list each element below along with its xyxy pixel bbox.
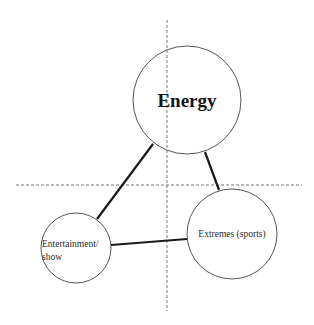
node-energy-label: Energy [157,90,217,111]
node-entertainment: Entertainment/ show [41,213,111,283]
edge-entertainment-extremes [111,239,187,245]
node-entertainment-label-line1: Entertainment/ [42,239,99,249]
diagram-canvas: Energy Entertainment/ show Extremes (spo… [0,0,314,325]
edge-energy-extremes [205,152,219,190]
node-extremes-label: Extremes (sports) [198,229,265,240]
edge-energy-entertainment [97,144,153,219]
node-extremes: Extremes (sports) [187,189,277,279]
node-entertainment-label-line2: show [42,252,62,262]
node-energy: Energy [133,46,241,154]
